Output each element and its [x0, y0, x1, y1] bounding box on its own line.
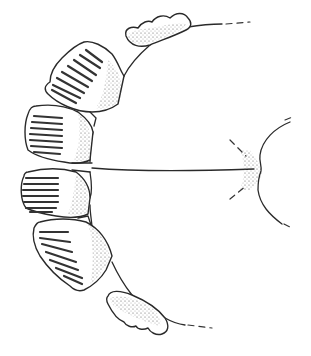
plate-3 [21, 169, 90, 217]
connector [72, 163, 92, 172]
plate-4 [33, 219, 112, 291]
plate-2 [25, 105, 93, 163]
notch [230, 116, 295, 228]
illustration-canvas [0, 0, 311, 356]
upper-lobe [126, 14, 191, 47]
connector [90, 112, 96, 126]
lower-lobe [107, 291, 168, 334]
specimen-drawing [0, 0, 311, 356]
plate-1 [45, 42, 124, 112]
